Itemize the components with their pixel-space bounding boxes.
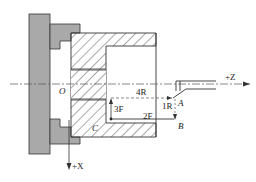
workpiece <box>71 33 156 137</box>
x-axis-label: +X <box>72 162 84 171</box>
x-axis-arrow-icon <box>67 163 72 170</box>
point-a-label: A <box>178 99 184 108</box>
diagram-canvas: O +Z +X A B C 1R 2F 3F 4R <box>0 0 256 182</box>
z-axis-label: +Z <box>225 73 236 82</box>
move-2f-label: 2F <box>143 112 153 121</box>
cutting-tool <box>173 81 216 98</box>
lathe-diagram-svg <box>0 0 256 182</box>
z-axis-arrow-icon <box>243 82 250 87</box>
origin-label: O <box>59 87 66 96</box>
move-1r-label: 1R <box>162 102 173 111</box>
move-3f-label: 3F <box>114 105 124 114</box>
point-b-label: B <box>178 122 184 131</box>
move-4r-label: 4R <box>136 88 147 97</box>
point-c-label: C <box>92 124 98 133</box>
